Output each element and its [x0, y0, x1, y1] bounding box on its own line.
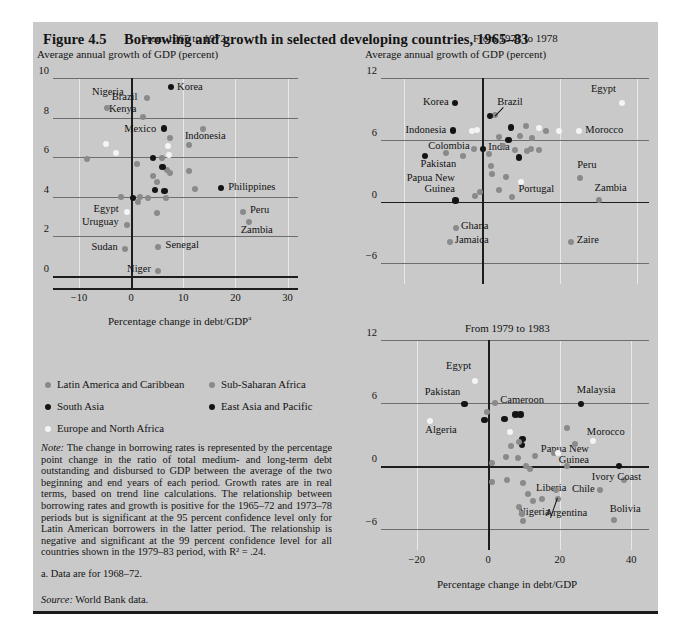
data-point: [486, 151, 492, 157]
data-point: [154, 210, 160, 216]
point-label: Morocco: [587, 426, 625, 437]
label-leader-line: [495, 107, 504, 116]
y-axis-label-panel2: Average annual growth of GDP (percent): [365, 48, 546, 60]
point-label: Cameroon: [500, 394, 544, 405]
point-label: Indonesia: [185, 130, 226, 141]
data-point-cameroon: [492, 400, 498, 406]
x-axis-line: [53, 288, 298, 290]
data-point: [477, 189, 483, 195]
data-point: [135, 199, 141, 205]
data-point: [159, 164, 165, 170]
data-point: [504, 477, 510, 483]
data-point: [488, 163, 494, 169]
data-point: [186, 168, 192, 174]
x-axis-label-panel3: Percentage change in debt/GDP: [437, 578, 577, 590]
gridline-horizontal: [53, 197, 298, 198]
data-point-papua-new-guinea: [616, 463, 622, 469]
y-axis-label-panel1: Average annual growth of GDP (percent): [37, 48, 218, 60]
data-point-egypt: [619, 100, 625, 106]
point-label: Egypt: [524, 83, 616, 94]
x-axis-zero-line: [381, 466, 649, 468]
data-point: [507, 429, 513, 435]
x-tick-label: 30: [274, 292, 302, 303]
data-point: [564, 463, 570, 469]
data-point-algeria: [427, 418, 433, 424]
point-label: Ghana: [461, 220, 488, 231]
data-point-bolivia: [611, 517, 617, 523]
data-point: [525, 491, 531, 497]
y-tick-label: −6: [355, 250, 377, 261]
point-label: Bolivia: [610, 503, 641, 514]
data-point: [532, 453, 538, 459]
data-point: [192, 186, 198, 192]
data-point: [529, 135, 535, 141]
data-point-morocco: [590, 438, 596, 444]
legend-dot-black: [45, 404, 51, 410]
point-label: Zambia: [241, 224, 273, 235]
x-tick-label: −10: [65, 292, 93, 303]
data-point: [145, 195, 151, 201]
y-axis-zero-line: [488, 340, 490, 550]
data-point: [512, 147, 518, 153]
data-point: [523, 123, 529, 129]
plot-area-panel3: EgyptPakistanCameroonMalaysiaAlgeriaMoro…: [381, 340, 649, 550]
chart-title-panel1: From 1965 to 1972: [141, 32, 226, 44]
data-point: [527, 466, 533, 472]
plot-area-panel1: NigeriaKoreaBrazilKenyaMexicoIndonesiaPh…: [53, 78, 298, 288]
point-label: Liberia: [536, 482, 566, 493]
data-point: [84, 156, 90, 162]
figure-title: Figure 4.5 Borrowing and growth in selec…: [43, 31, 528, 48]
data-point: [500, 143, 506, 149]
data-point: [536, 147, 542, 153]
x-tick-label: 0: [117, 292, 145, 303]
data-point: [516, 504, 522, 510]
y-tick-label: 6: [27, 144, 49, 155]
data-point: [496, 187, 502, 193]
data-point: [528, 146, 534, 152]
data-point: [496, 134, 502, 140]
data-point: [530, 498, 536, 504]
legend-label: Latin America and Caribbean: [57, 378, 184, 390]
data-point: [508, 443, 514, 449]
y-tick-label: 12: [355, 65, 377, 76]
data-point-india: [480, 146, 486, 152]
legend-label: East Asia and Pacific: [221, 400, 312, 412]
y-tick-label: 6: [355, 390, 377, 401]
point-label: Kenya: [44, 103, 136, 114]
data-point-zaire: [568, 239, 574, 245]
data-point: [161, 188, 167, 194]
gridline-vertical: [288, 78, 289, 288]
legend-label: Europe and North Africa: [57, 422, 164, 434]
chart-title-panel2: From 1973 to 1978: [473, 32, 558, 44]
plot-top-border: [53, 78, 298, 79]
point-label: Morocco: [585, 124, 623, 135]
point-label: Egypt: [27, 203, 119, 214]
y-axis-zero-line: [482, 78, 484, 284]
legend-dot-black: [209, 404, 215, 410]
data-point-korea: [452, 100, 458, 106]
footnote-a: a. Data are for 1968–72.: [41, 568, 142, 579]
data-point: [489, 479, 495, 485]
data-point-colombia: [471, 146, 477, 152]
point-label: Pakistan: [421, 158, 457, 169]
point-label: Brazil: [497, 96, 523, 107]
data-point: [489, 460, 495, 466]
gridline-horizontal: [53, 118, 298, 119]
data-point-uruguay: [124, 222, 130, 228]
data-point-papua-new-guinea: [452, 197, 458, 203]
point-label: Zambia: [595, 182, 627, 193]
data-point-pakistan: [461, 401, 467, 407]
point-label: Egypt: [379, 360, 471, 371]
x-tick-label: 20: [221, 292, 249, 303]
point-label: Zaire: [577, 234, 599, 245]
point-label: Niger: [59, 263, 151, 274]
data-point: [103, 141, 109, 147]
data-point-zambia: [596, 197, 602, 203]
data-point-peru: [240, 209, 246, 215]
data-point: [505, 137, 511, 143]
point-label: Portugal: [518, 183, 554, 194]
gridline-vertical: [560, 78, 561, 284]
data-point-philippines: [218, 185, 224, 191]
legend-dot-gray: [209, 382, 215, 388]
point-label: Papua New Guinea: [385, 172, 455, 194]
